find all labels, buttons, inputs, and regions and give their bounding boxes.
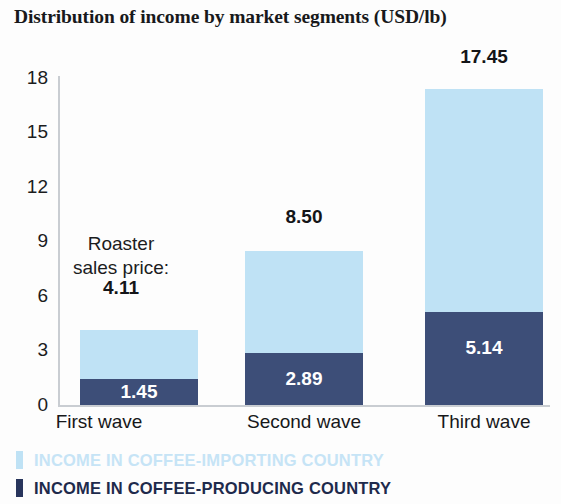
chart-plot-area: 18 15 12 9 6 3 0 4.11 Roaster sales pric… bbox=[0, 0, 561, 430]
legend-label-importing-country: INCOME IN COFFEE-IMPORTING COUNTRY bbox=[34, 451, 384, 470]
bar-value-label-producing-second-wave: 2.89 bbox=[245, 368, 363, 390]
annotation-line-1: Roaster bbox=[46, 232, 196, 256]
x-axis-line bbox=[58, 405, 550, 407]
y-axis-tick-label: 12 bbox=[4, 176, 48, 198]
bar-segment-importing-first-wave[interactable] bbox=[80, 330, 198, 379]
bar-total-label-third-wave: 17.45 bbox=[425, 46, 543, 68]
y-axis-tick-label: 6 bbox=[4, 285, 48, 307]
bar-segment-producing-third-wave[interactable]: 5.14 bbox=[425, 312, 543, 405]
bar-segment-importing-third-wave[interactable] bbox=[425, 89, 543, 312]
y-axis-tick-label: 15 bbox=[4, 121, 48, 143]
chart-legend: INCOME IN COFFEE-IMPORTING COUNTRY INCOM… bbox=[16, 446, 561, 502]
bar-total-label-second-wave: 8.50 bbox=[245, 206, 363, 228]
bar-first-wave[interactable]: 1.45 bbox=[80, 330, 198, 405]
x-axis-category-second-wave: Second wave bbox=[224, 411, 384, 433]
legend-label-producing-country: INCOME IN COFFEE-PRODUCING COUNTRY bbox=[34, 479, 391, 498]
legend-swatch-icon bbox=[16, 451, 23, 469]
y-axis-tick-label: 18 bbox=[4, 67, 48, 89]
x-axis-category-third-wave: Third wave bbox=[404, 411, 561, 433]
bar-second-wave[interactable]: 2.89 bbox=[245, 251, 363, 405]
roaster-sales-price-annotation: Roaster sales price: bbox=[46, 232, 196, 281]
bar-segment-producing-first-wave[interactable]: 1.45 bbox=[80, 379, 198, 405]
bar-segment-importing-second-wave[interactable] bbox=[245, 251, 363, 353]
legend-item-importing-country[interactable]: INCOME IN COFFEE-IMPORTING COUNTRY bbox=[16, 446, 561, 474]
y-axis-tick-label: 3 bbox=[4, 339, 48, 361]
legend-swatch-icon bbox=[16, 479, 23, 497]
bar-segment-producing-second-wave[interactable]: 2.89 bbox=[245, 353, 363, 405]
x-axis-category-first-wave: First wave bbox=[19, 411, 179, 433]
y-axis-tick-label: 9 bbox=[4, 230, 48, 252]
bar-value-label-producing-first-wave: 1.45 bbox=[80, 381, 198, 403]
bar-third-wave[interactable]: 5.14 bbox=[425, 89, 543, 405]
bar-value-label-producing-third-wave: 5.14 bbox=[425, 337, 543, 359]
annotation-line-2: sales price: bbox=[46, 256, 196, 280]
legend-item-producing-country[interactable]: INCOME IN COFFEE-PRODUCING COUNTRY bbox=[16, 474, 561, 502]
